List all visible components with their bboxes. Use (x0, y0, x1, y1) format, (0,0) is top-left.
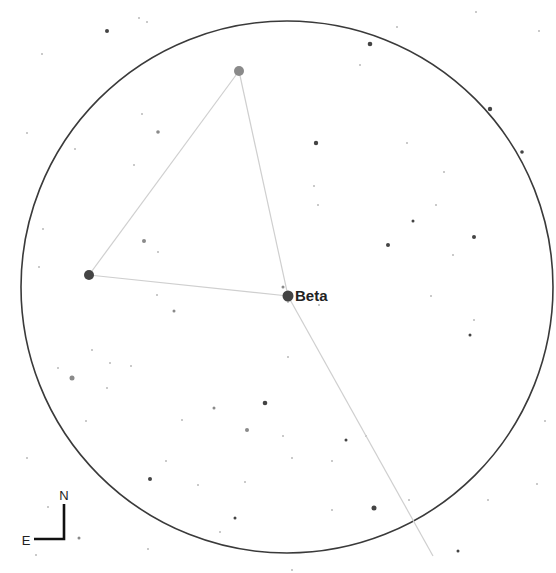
star (345, 439, 348, 442)
chart-background (0, 0, 556, 573)
star (487, 499, 489, 501)
star (520, 150, 524, 154)
star (244, 481, 246, 483)
star (57, 367, 59, 369)
star (396, 26, 398, 28)
star (475, 11, 477, 13)
star (282, 435, 284, 437)
star (536, 483, 538, 485)
star (106, 387, 108, 389)
star (406, 142, 408, 144)
star (146, 21, 148, 23)
star (47, 506, 49, 508)
star (78, 537, 81, 540)
star (156, 130, 160, 134)
constellation-star (84, 270, 94, 280)
star (26, 457, 28, 459)
star (165, 460, 167, 462)
star (109, 362, 111, 364)
star (147, 548, 149, 550)
star (313, 185, 315, 187)
star (142, 239, 146, 243)
star (544, 420, 546, 422)
star (368, 42, 373, 47)
star (173, 310, 176, 313)
star (263, 401, 268, 406)
star (141, 113, 143, 115)
constellation-star (234, 66, 244, 76)
star-beta (283, 291, 294, 302)
star (457, 550, 460, 553)
star (148, 477, 152, 481)
star (213, 407, 216, 410)
star (70, 376, 75, 381)
star (105, 29, 109, 33)
star (488, 107, 492, 111)
star (133, 164, 135, 166)
star (469, 334, 472, 337)
star (452, 254, 454, 256)
star (314, 141, 318, 145)
star (282, 286, 285, 289)
star (157, 251, 159, 253)
star (331, 509, 333, 511)
star (26, 132, 28, 134)
star (430, 295, 432, 297)
star (386, 243, 390, 247)
star (41, 53, 43, 55)
star (156, 294, 158, 296)
star (443, 171, 445, 173)
star (130, 365, 132, 367)
star (38, 266, 40, 268)
star (473, 319, 475, 321)
star (85, 420, 87, 422)
star (408, 499, 410, 501)
star (538, 30, 540, 32)
star (234, 517, 237, 520)
star (317, 204, 319, 206)
star (318, 304, 320, 306)
star (291, 569, 293, 571)
star (181, 419, 183, 421)
star (472, 235, 476, 239)
star (74, 148, 76, 150)
star-label-beta: Beta (295, 287, 328, 304)
star (245, 428, 249, 432)
star (138, 17, 140, 19)
compass-east-label: E (22, 533, 31, 548)
star (287, 356, 289, 358)
star (372, 506, 377, 511)
star (359, 64, 361, 66)
star (412, 220, 415, 223)
star (219, 531, 221, 533)
compass-north-label: N (59, 488, 68, 503)
star (42, 228, 44, 230)
star (435, 204, 437, 206)
star-chart: Beta N E (0, 0, 556, 573)
star (331, 460, 333, 462)
star (35, 554, 37, 556)
star (91, 349, 93, 351)
star (291, 457, 293, 459)
star (197, 484, 199, 486)
